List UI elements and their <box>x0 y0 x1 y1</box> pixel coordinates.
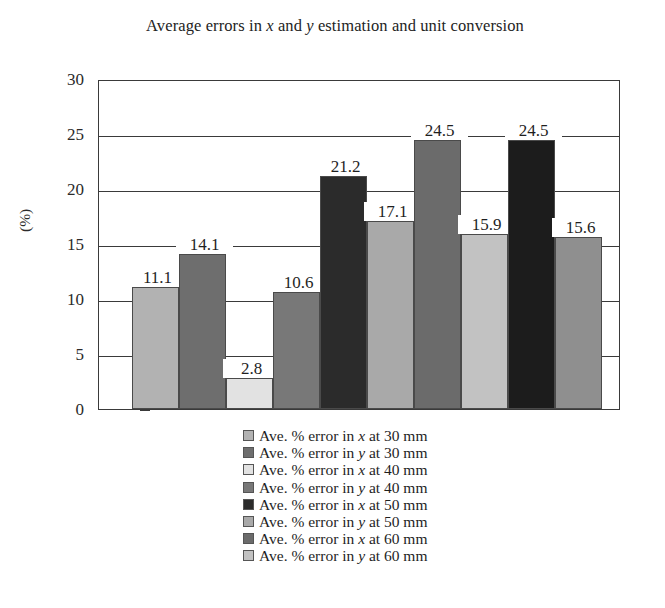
legend-swatch-icon <box>243 447 254 458</box>
legend-swatch-icon <box>243 482 254 493</box>
bar[interactable] <box>226 378 273 409</box>
y-axis-title: (%) <box>16 209 34 232</box>
legend-swatch-icon <box>243 430 254 441</box>
bar[interactable] <box>179 254 226 409</box>
y-axis-tick-label: 5 <box>76 345 85 365</box>
legend-item-label: Ave. % error in y at 30 mm <box>259 444 427 461</box>
y-axis-tick-label: 20 <box>67 180 84 200</box>
legend-item[interactable]: Ave. % error in x at 30 mm <box>243 427 563 444</box>
chart-legend: Ave. % error in x at 30 mmAve. % error i… <box>243 427 563 565</box>
legend-item-label: Ave. % error in x at 30 mm <box>259 427 427 444</box>
legend-item[interactable]: Ave. % error in x at 50 mm <box>243 496 563 513</box>
bar-value-label: 2.8 <box>223 359 280 378</box>
legend-item[interactable]: Ave. % error in y at 30 mm <box>243 444 563 461</box>
bar[interactable] <box>555 237 602 409</box>
legend-item-label: Ave. % error in x at 50 mm <box>259 496 427 513</box>
legend-item-label: Ave. % error in y at 60 mm <box>259 547 427 564</box>
bar[interactable] <box>461 234 508 409</box>
y-axis-tick-label: 15 <box>67 235 84 255</box>
page-title-part-1: x <box>266 16 273 35</box>
page-title-part-4: estimation and unit conversion <box>314 16 524 35</box>
page-title-part-0: Average errors in <box>146 16 266 35</box>
legend-swatch-icon <box>243 464 254 475</box>
legend-swatch-icon <box>243 550 254 561</box>
bar[interactable] <box>367 221 414 409</box>
legend-item[interactable]: Ave. % error in y at 50 mm <box>243 513 563 530</box>
legend-item-label: Ave. % error in x at 60 mm <box>259 530 427 547</box>
legend-item[interactable]: Ave. % error in x at 60 mm <box>243 530 563 547</box>
y-axis-tick-mark <box>140 410 150 411</box>
y-axis-tick-label: 30 <box>67 70 84 90</box>
legend-item-label: Ave. % error in x at 40 mm <box>259 461 427 478</box>
y-axis: 051015202530 <box>52 80 90 410</box>
y-axis-tick-label: 0 <box>76 400 85 420</box>
page-title-part-3: y <box>306 16 313 35</box>
bar[interactable] <box>320 176 367 409</box>
page-title: Average errors in x and y estimation and… <box>90 14 580 38</box>
plot-area: 11.114.12.810.621.217.124.515.924.515.6 <box>98 80 620 410</box>
bar[interactable] <box>132 287 179 409</box>
bar-value-label: 15.9 <box>458 215 515 234</box>
page-title-part-2: and <box>274 16 307 35</box>
bar-value-label: 15.6 <box>552 218 609 237</box>
bar[interactable] <box>273 292 320 409</box>
bar[interactable] <box>414 140 461 410</box>
y-axis-tick-label: 25 <box>67 125 84 145</box>
bar-value-label: 11.1 <box>129 268 186 287</box>
legend-swatch-icon <box>243 533 254 544</box>
legend-item[interactable]: Ave. % error in y at 40 mm <box>243 479 563 496</box>
bar-value-label: 24.5 <box>411 121 468 140</box>
legend-swatch-icon <box>243 516 254 527</box>
legend-item[interactable]: Ave. % error in x at 40 mm <box>243 461 563 478</box>
bar-value-label: 14.1 <box>176 235 233 254</box>
bar-value-label: 17.1 <box>364 202 421 221</box>
bar-value-label: 10.6 <box>270 273 327 292</box>
legend-item-label: Ave. % error in y at 50 mm <box>259 513 427 530</box>
legend-item-label: Ave. % error in y at 40 mm <box>259 479 427 496</box>
legend-swatch-icon <box>243 499 254 510</box>
bar-value-label: 21.2 <box>317 157 374 176</box>
y-axis-tick-label: 10 <box>67 290 84 310</box>
bar[interactable] <box>508 140 555 410</box>
bar-value-label: 24.5 <box>505 121 562 140</box>
legend-item[interactable]: Ave. % error in y at 60 mm <box>243 547 563 564</box>
